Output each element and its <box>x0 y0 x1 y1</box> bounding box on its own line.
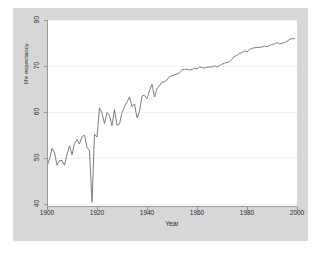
xtick-label-1980: 1980 <box>234 209 260 216</box>
xtick-label-2000: 2000 <box>284 209 310 216</box>
x-axis-title: Year <box>47 220 297 227</box>
xtick-label-1940: 1940 <box>134 209 160 216</box>
ytick-label-50: 50 <box>33 150 40 166</box>
ytick-mark-40 <box>44 204 47 205</box>
xtick-label-1900: 1900 <box>34 209 60 216</box>
ytick-mark-70 <box>44 66 47 67</box>
xtick-label-1960: 1960 <box>184 209 210 216</box>
ytick-label-80: 80 <box>33 12 40 28</box>
chart-screenshot: 80 70 60 50 40 1900 1920 1940 1960 1980 … <box>0 0 320 253</box>
ytick-label-70: 70 <box>33 58 40 74</box>
ytick-mark-80 <box>44 20 47 21</box>
y-axis-title: life expectancy <box>22 43 29 84</box>
series-line-life-expectancy <box>47 20 297 207</box>
ytick-mark-60 <box>44 112 47 113</box>
ytick-mark-50 <box>44 158 47 159</box>
xtick-label-1920: 1920 <box>84 209 110 216</box>
ytick-label-60: 60 <box>33 104 40 120</box>
